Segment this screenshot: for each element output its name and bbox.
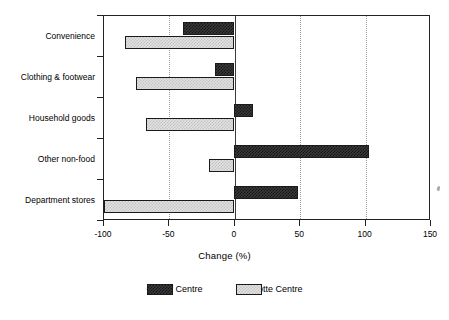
- x-tick-label-150: 150: [423, 229, 437, 239]
- x-axis-title: Change (%): [0, 250, 449, 261]
- x-tick-label-50: 50: [294, 229, 303, 239]
- legend-swatch-charlotte: [236, 284, 262, 295]
- bar-cardiff-centre-2: [234, 104, 254, 117]
- y-axis-label-0: Convenience: [0, 31, 95, 41]
- x-tick-150: [430, 220, 431, 226]
- bar-cardiff-centre-0: [183, 22, 234, 35]
- legend-item-charlotte[interactable]: Charlotte Centre: [236, 284, 302, 294]
- legend-swatch-cardiff: [147, 284, 173, 295]
- bar-charlotte-centre-0: [125, 36, 234, 49]
- y-tick-0: [97, 56, 103, 57]
- legend: Cardiff Centre Charlotte Centre: [0, 284, 449, 294]
- bar-charlotte-centre-1: [136, 77, 234, 90]
- y-axis-label-2: Household goods: [0, 113, 95, 123]
- bar-charlotte-centre-2: [146, 118, 234, 131]
- gridline-50: [300, 16, 301, 219]
- y-axis-label-1: Clothing & footwear: [0, 72, 95, 82]
- x-tick-label--100: -100: [94, 229, 111, 239]
- scan-artifact: [436, 186, 440, 192]
- bar-cardiff-centre-3: [234, 145, 369, 158]
- y-axis-label-3: Other non-food: [0, 154, 95, 164]
- x-tick-50: [299, 220, 300, 226]
- y-tick-4: [97, 220, 103, 221]
- x-tick-label--50: -50: [162, 229, 174, 239]
- x-tick--50: [168, 220, 169, 226]
- bar-charlotte-centre-4: [104, 200, 233, 213]
- y-tick-3: [97, 179, 103, 180]
- x-tick-label-0: 0: [231, 229, 236, 239]
- x-tick--100: [103, 220, 104, 226]
- y-tick-2: [97, 138, 103, 139]
- bar-cardiff-centre-1: [215, 63, 233, 76]
- bar-chart: Change (%) Cardiff Centre Charlotte Cent…: [0, 0, 449, 320]
- x-tick-100: [365, 220, 366, 226]
- y-axis-label-4: Department stores: [0, 195, 95, 205]
- bar-charlotte-centre-3: [209, 159, 234, 172]
- y-tick-top: [97, 15, 103, 16]
- y-tick-1: [97, 97, 103, 98]
- gridline-100: [366, 16, 367, 219]
- x-tick-0: [234, 220, 235, 226]
- bar-cardiff-centre-4: [234, 186, 298, 199]
- x-tick-label-100: 100: [358, 229, 372, 239]
- legend-item-cardiff[interactable]: Cardiff Centre: [147, 284, 203, 294]
